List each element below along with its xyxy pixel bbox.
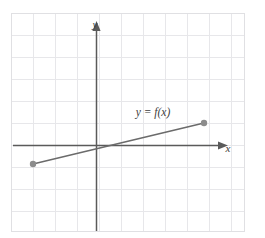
grid-lines [11,13,245,232]
function-endpoint-right [201,120,207,126]
function-equation-label: y = f(x) [135,106,171,119]
graph-canvas: x y y = f(x) [0,0,265,238]
coordinate-axes [13,21,228,231]
function-endpoint-left [30,161,36,167]
y-axis-label: y [92,18,98,30]
function-graph-figure: x y y = f(x) [0,0,265,238]
function-line-segment [33,123,204,164]
function-series [30,120,207,167]
x-axis-label: x [225,142,231,154]
